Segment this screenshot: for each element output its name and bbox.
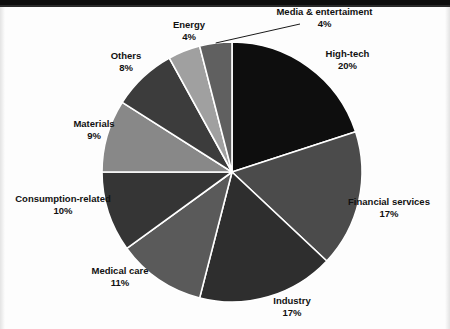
- pie-label-energy: Energy 4%: [158, 19, 220, 42]
- pie-label-financial-services: Financial services 17%: [330, 196, 448, 219]
- pie-label-value: 20%: [300, 60, 395, 72]
- pie-label-medical-care: Medical care 11%: [73, 265, 167, 288]
- pie-label-others: Others 8%: [95, 50, 157, 73]
- pie-label-name: Others: [95, 50, 157, 62]
- pie-label-value: 10%: [2, 205, 124, 217]
- pie-label-value: 4%: [158, 31, 220, 43]
- pie-label-value: 9%: [56, 130, 132, 142]
- pie-label-media-entertainment: Media & entertaiment 4%: [252, 6, 397, 29]
- pie-label-value: 17%: [253, 307, 331, 319]
- pie-label-name: Media & entertaiment: [252, 6, 397, 18]
- pie-label-name: Financial services: [330, 196, 448, 208]
- pie-label-name: Materials: [56, 118, 132, 130]
- pie-label-name: Energy: [158, 19, 220, 31]
- pie-label-value: 17%: [330, 208, 448, 220]
- pie-label-industry: Industry 17%: [253, 295, 331, 318]
- pie-label-materials: Materials 9%: [56, 118, 132, 141]
- pie-chart-figure: Media & entertaiment 4% High-tech 20% Fi…: [0, 0, 450, 329]
- pie-label-consumption-related: Consumption-related 10%: [2, 193, 124, 216]
- pie-label-name: Consumption-related: [2, 193, 124, 205]
- pie-slice-group: [102, 42, 362, 302]
- pie-label-name: Industry: [253, 295, 331, 307]
- pie-label-name: High-tech: [300, 48, 395, 60]
- pie-label-high-tech: High-tech 20%: [300, 48, 395, 71]
- pie-label-name: Medical care: [73, 265, 167, 277]
- pie-label-value: 8%: [95, 62, 157, 74]
- pie-label-value: 4%: [252, 18, 397, 30]
- pie-label-value: 11%: [73, 277, 167, 289]
